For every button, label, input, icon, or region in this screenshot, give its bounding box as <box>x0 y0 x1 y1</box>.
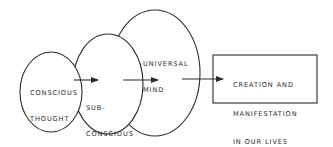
label-line: MANIFESTATION <box>233 110 298 120</box>
label-line: SUB- <box>86 104 134 113</box>
label-line: CONSCIOUS <box>86 130 134 139</box>
subconscious-mind-label: SUB- CONSCIOUS MIND <box>86 86 134 147</box>
label-line: CREATION AND <box>233 81 298 91</box>
creation-label: CREATION AND MANIFESTATION IN OUR LIVES <box>233 62 298 147</box>
label-line: CONSCIOUS <box>30 89 78 98</box>
label-line: UNIVERSAL <box>143 60 189 69</box>
label-line: IN OUR LIVES <box>233 138 298 147</box>
universal-mind-label: UNIVERSAL MIND <box>143 42 189 104</box>
label-line: THOUGHT <box>30 115 78 124</box>
conscious-thought-label: CONSCIOUS THOUGHT <box>30 71 78 133</box>
label-line: MIND <box>143 86 189 95</box>
